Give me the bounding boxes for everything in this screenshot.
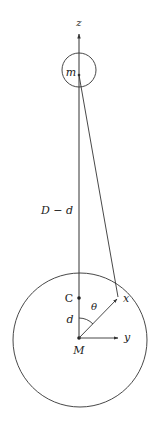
z-axis-label: z (75, 17, 82, 28)
angle-label: θ (91, 301, 97, 312)
separation-line (79, 75, 118, 297)
field-point-label: x (123, 292, 130, 305)
distance-label: D − d (40, 204, 73, 217)
offset-label: d (66, 313, 73, 326)
large-mass-label: M (72, 344, 85, 357)
small-mass-label: m (66, 66, 76, 79)
center-point (77, 296, 81, 300)
angle-arc (79, 318, 93, 324)
center-point-label: C (65, 292, 73, 305)
tidal-geometry-diagram: z m D − d C M x y θ d (0, 0, 161, 421)
y-axis-label: y (123, 331, 131, 344)
